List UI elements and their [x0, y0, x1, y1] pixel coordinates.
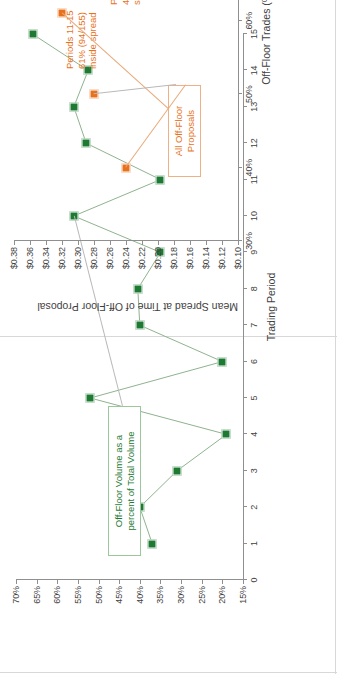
x-tick	[243, 397, 247, 398]
y-axis-line	[16, 579, 243, 580]
x-tick-label: 40%	[244, 159, 254, 177]
y-tick	[62, 241, 63, 245]
y-tick-label: $0.34	[41, 247, 51, 289]
y-tick	[243, 580, 244, 584]
y-tick-label: 45%	[114, 586, 124, 624]
y-tick	[94, 241, 95, 245]
y-tick-label: $0.22	[137, 247, 147, 289]
x-tick	[243, 433, 247, 434]
x-axis-line	[238, 0, 239, 241]
y-tick-label: $0.14	[201, 247, 211, 289]
point-label: Periods 6-10 49% (72/148) inside spread	[108, 0, 143, 5]
x-tick-label: 4	[249, 432, 259, 437]
y-tick-label: 30%	[176, 586, 186, 624]
x-tick	[243, 543, 247, 544]
x-tick	[238, 20, 242, 21]
y-tick-label: $0.36	[25, 247, 35, 289]
y-tick	[160, 580, 161, 584]
annotation-callout: Off-Floor Volume as a percent of Total V…	[108, 406, 141, 556]
y-tick	[181, 580, 182, 584]
y-tick-label: $0.24	[121, 247, 131, 289]
y-tick-label: 65%	[32, 586, 42, 624]
y-tick-label: 55%	[73, 586, 83, 624]
x-tick-label: 1	[249, 541, 259, 546]
y-tick-label: 15%	[238, 586, 248, 624]
y-tick	[222, 580, 223, 584]
y-tick	[78, 241, 79, 245]
data-point[interactable]	[218, 357, 227, 366]
x-tick-label: 60%	[244, 12, 254, 30]
y-tick	[140, 580, 141, 584]
y-tick-label: 70%	[11, 586, 21, 624]
y-tick-label: $0.20	[153, 247, 163, 289]
y-tick-label: $0.10	[233, 247, 243, 289]
y-tick	[119, 580, 120, 584]
x-tick	[243, 470, 247, 471]
y-tick	[222, 241, 223, 245]
data-point[interactable]	[172, 466, 181, 475]
y-tick-label: $0.30	[73, 247, 83, 289]
y-tick	[78, 580, 79, 584]
x-tick-label: 50%	[244, 85, 254, 103]
y-tick-label: $0.32	[57, 247, 67, 289]
y-tick	[142, 241, 143, 245]
sheet-edge-right	[335, 0, 336, 674]
y-tick-label: 60%	[52, 586, 62, 624]
y-tick	[238, 241, 239, 245]
y-tick	[126, 241, 127, 245]
y-tick	[202, 580, 203, 584]
y-tick	[37, 580, 38, 584]
data-point[interactable]	[148, 539, 157, 548]
y-tick	[57, 580, 58, 584]
y-tick	[46, 241, 47, 245]
chart-mean-spread-scatter: 30%40%50%60%70%80%90%100%$0.38$0.36$0.34…	[0, 0, 310, 327]
y-tick-label: 25%	[197, 586, 207, 624]
x-axis-title: Off-Floor Trades (% of total trading vol…	[260, 0, 272, 85]
x-tick-label: 2	[249, 505, 259, 510]
y-tick	[30, 241, 31, 245]
x-tick-label: 6	[249, 359, 259, 364]
x-tick-label: 0	[249, 578, 259, 583]
x-tick-label: 5	[249, 396, 259, 401]
y-tick	[99, 580, 100, 584]
y-tick	[158, 241, 159, 245]
y-tick	[174, 241, 175, 245]
y-tick-label: 20%	[217, 586, 227, 624]
y-tick-label: $0.18	[169, 247, 179, 289]
x-tick	[243, 361, 247, 362]
x-tick	[238, 93, 242, 94]
x-tick	[243, 506, 247, 507]
page-canvas: 012345678910111213141570%65%60%55%50%45%…	[0, 0, 337, 674]
y-tick	[16, 580, 17, 584]
y-tick-label: 35%	[155, 586, 165, 624]
sheet-edge-bottom	[0, 672, 337, 673]
data-point[interactable]	[222, 430, 231, 439]
group-leader	[94, 84, 176, 94]
y-tick-label: $0.12	[217, 247, 227, 289]
x-tick	[238, 167, 242, 168]
y-tick-label: 50%	[94, 586, 104, 624]
group-callout-all-proposals: All Off-Floor Proposals	[168, 85, 201, 177]
y-tick-label: $0.28	[89, 247, 99, 289]
y-tick	[14, 241, 15, 245]
x-tick-label: 30%	[244, 232, 254, 250]
y-tick	[110, 241, 111, 245]
y-tick	[206, 241, 207, 245]
y-tick-label: $0.26	[105, 247, 115, 289]
y-tick-label: $0.16	[185, 247, 195, 289]
y-axis-title: Mean Spread at Time of Off-Floor Proposa…	[37, 301, 238, 313]
data-point[interactable]	[86, 394, 95, 403]
data-point[interactable]	[90, 90, 99, 99]
y-tick-label: 40%	[135, 586, 145, 624]
x-tick-label: 3	[249, 468, 259, 473]
y-tick-label: $0.38	[9, 247, 19, 289]
y-tick	[190, 241, 191, 245]
point-label: Periods 11-15 61% (94/155) inside spread	[64, 0, 99, 69]
